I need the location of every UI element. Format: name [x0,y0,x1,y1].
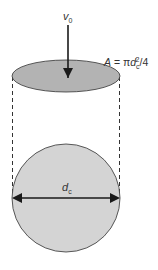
diameter-subscript: c [68,188,72,195]
velocity-label: v0 [63,11,72,22]
area-eq: = π [111,56,130,68]
area-tail: /4 [139,56,148,68]
area-symbol: A [104,56,111,68]
diagram-canvas [0,0,158,270]
diameter-label: dc [62,182,72,193]
area-formula: A = πdc2/4 [104,57,148,68]
velocity-subscript: 0 [69,17,73,24]
